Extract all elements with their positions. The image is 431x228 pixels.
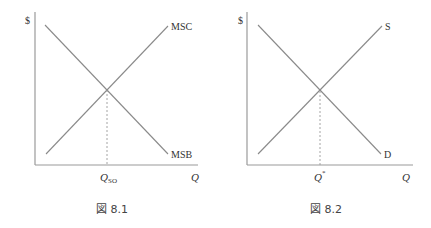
x-axis-label: Q — [402, 171, 410, 183]
q-so-subscript: SO — [108, 177, 117, 185]
diagram-canvas: $ MSC MSB Q SO Q 図 8.1 $ S D Q * Q 図 8.2 — [0, 0, 431, 228]
x-axis-label: Q — [191, 171, 199, 183]
y-axis-label: $ — [25, 15, 30, 26]
msb-label: MSB — [171, 149, 192, 160]
figure-caption: 図 8.1 — [96, 203, 128, 216]
figure-caption: 図 8.2 — [310, 203, 342, 216]
msb-curve — [45, 25, 168, 154]
y-axis-label: $ — [238, 15, 243, 26]
q-star-superscript: * — [322, 169, 326, 177]
figure-8-2: $ S D Q * Q 図 8.2 — [238, 12, 413, 216]
q-star-label: Q — [314, 171, 322, 183]
figure-8-1: $ MSC MSB Q SO Q 図 8.1 — [25, 12, 199, 216]
msc-label: MSC — [171, 21, 192, 32]
demand-label: D — [384, 149, 391, 160]
q-so-label: Q — [100, 171, 108, 183]
supply-label: S — [385, 21, 391, 32]
